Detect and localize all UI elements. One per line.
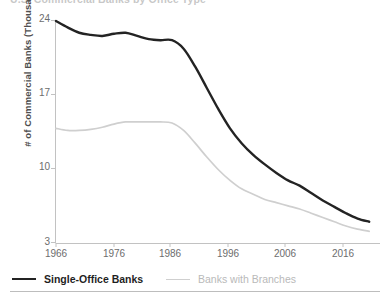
chart-legend: Single-Office Banks Banks with Branches	[0, 270, 390, 290]
legend-label: Banks with Branches	[198, 273, 296, 285]
legend-swatch-gray	[166, 279, 190, 280]
legend-label: Single-Office Banks	[44, 273, 143, 285]
chart-container: U.S. Commercial Banks by Office Type # o…	[0, 0, 390, 302]
y-axis-ticks	[51, 21, 56, 243]
line-banks-with-branches	[56, 122, 369, 232]
legend-swatch-dark	[12, 278, 36, 280]
legend-item-single-office-banks[interactable]: Single-Office Banks	[12, 270, 143, 288]
legend-item-banks-with-branches[interactable]: Banks with Branches	[166, 270, 296, 288]
line-single-office-banks	[56, 21, 369, 222]
x-axis-ticks	[56, 244, 343, 248]
footer-divider	[10, 291, 380, 292]
plot-area	[0, 0, 390, 302]
